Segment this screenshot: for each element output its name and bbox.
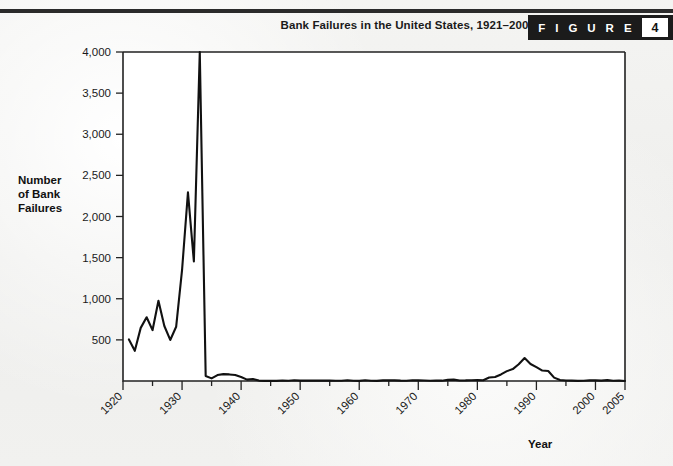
y-tick-label: 500: [92, 334, 111, 346]
x-tick-label: 1970: [393, 390, 420, 417]
page-title: Bank Failures in the United States, 1921…: [281, 19, 535, 31]
y-tick-label: 1,500: [82, 252, 111, 264]
x-axis-ticks: 1920193019401950196019701980199020002005: [98, 381, 627, 417]
y-axis-title-line-3: Failures: [18, 201, 80, 215]
figure-badge-number: 4: [642, 18, 668, 37]
figure-badge-label: F I G U R E: [538, 22, 635, 34]
figure-badge: F I G U R E 4: [528, 15, 673, 40]
y-axis-title-line-2: of Bank: [18, 187, 80, 201]
chart-container: 5001,0001,5002,0002,5003,0003,5004,000 1…: [0, 38, 673, 466]
x-tick-label: 1950: [275, 390, 302, 417]
x-axis-title: Year: [528, 438, 552, 450]
x-tick-label: 2005: [600, 390, 627, 417]
y-axis-title: Number of Bank Failures: [18, 173, 80, 215]
y-tick-label: 2,500: [82, 169, 111, 181]
x-tick-label: 1940: [216, 390, 243, 417]
y-tick-label: 2,000: [82, 211, 111, 223]
y-tick-label: 3,000: [82, 128, 111, 140]
y-tick-label: 3,500: [82, 87, 111, 99]
x-tick-label: 2000: [570, 390, 597, 417]
x-tick-label: 1930: [157, 390, 184, 417]
x-tick-label: 1990: [511, 390, 538, 417]
x-tick-label: 1980: [452, 390, 479, 417]
x-tick-label: 1960: [334, 390, 361, 417]
x-tick-label: 1920: [98, 390, 125, 417]
header-rule: [0, 9, 673, 13]
bank-failures-line-chart: 5001,0001,5002,0002,5003,0003,5004,000 1…: [0, 38, 673, 466]
y-axis-title-line-1: Number: [18, 173, 80, 187]
y-axis-ticks: 5001,0001,5002,0002,5003,0003,5004,000: [82, 46, 123, 346]
figure-page: Bank Failures in the United States, 1921…: [0, 0, 673, 466]
y-tick-label: 1,000: [82, 293, 111, 305]
y-tick-label: 4,000: [82, 46, 111, 58]
figure-header: Bank Failures in the United States, 1921…: [0, 15, 673, 39]
